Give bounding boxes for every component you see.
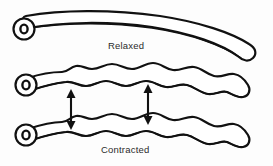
contracted-muscle-fiber-upper <box>16 63 250 97</box>
label-relaxed: Relaxed <box>108 40 144 51</box>
diagram-canvas: Relaxed Contracted <box>0 0 273 166</box>
contraction-arrow-right-head-up <box>144 84 153 93</box>
contracted-upper-outline <box>25 63 249 97</box>
label-contracted: Contracted <box>101 144 149 155</box>
contracted-lower-outline <box>25 113 249 147</box>
contraction-arrow-left-head-up <box>67 89 76 98</box>
contracted-upper-lumen <box>22 81 29 90</box>
relaxed-fiber-outline <box>22 11 255 60</box>
muscle-fiber-diagram <box>0 0 273 166</box>
contracted-lower-lumen <box>22 131 29 140</box>
relaxed-fiber-lumen <box>20 25 27 34</box>
contracted-muscle-fiber-lower <box>16 113 250 147</box>
relaxed-muscle-fiber <box>14 11 256 60</box>
